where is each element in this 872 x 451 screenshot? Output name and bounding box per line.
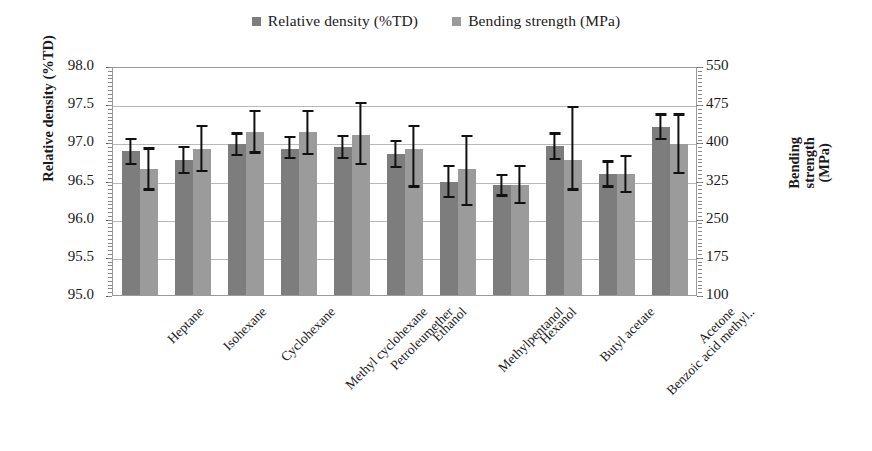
error-bar-cap-bottom (178, 172, 189, 174)
axis-minor-tick (698, 235, 702, 236)
axis-minor-tick (698, 212, 702, 213)
bar-slot (617, 68, 635, 295)
chart-container: Relative density (%TD) Bending strength … (0, 0, 872, 451)
error-bar-cap-bottom (284, 157, 295, 159)
bar-slot (546, 68, 564, 295)
axis-minor-tick (698, 71, 702, 72)
bar-slot (652, 68, 670, 295)
y-axis-right-tick-label: 475 (706, 95, 766, 112)
error-bar (196, 125, 207, 173)
bar-group (325, 68, 378, 295)
y-axis-right-tick-label: 550 (706, 57, 766, 74)
error-bar-cap-bottom (337, 157, 348, 159)
axis-minor-tick (698, 78, 702, 79)
axis-minor-tick (698, 258, 702, 259)
axis-minor-tick (698, 296, 702, 297)
error-bar-cap-bottom (143, 188, 154, 190)
axis-minor-tick (698, 136, 702, 137)
bar-slot (511, 68, 529, 295)
bar[interactable] (652, 127, 670, 295)
bar-slot (193, 68, 211, 295)
axis-minor-tick (698, 288, 702, 289)
error-bar-stem (341, 135, 343, 159)
bar-slot (228, 68, 246, 295)
y-axis-right-tick-label: 175 (706, 248, 766, 265)
error-bar (602, 160, 613, 187)
bar[interactable] (493, 185, 511, 295)
axis-minor-tick (698, 86, 702, 87)
bar[interactable] (122, 151, 140, 295)
bar[interactable] (387, 154, 405, 295)
error-bar-cap-top (143, 147, 154, 149)
error-bar-stem (147, 147, 149, 190)
error-bar (655, 113, 666, 139)
bar[interactable] (175, 160, 193, 295)
x-axis-category-labels: HeptaneIsohexaneCyclohexaneMethyl cycloh… (112, 296, 697, 446)
axis-minor-tick (698, 128, 702, 129)
error-bar-cap-top (249, 110, 260, 112)
error-bar-cap-top (408, 125, 419, 127)
error-bar-stem (253, 110, 255, 154)
bar-slot (387, 68, 405, 295)
bar[interactable] (440, 182, 458, 296)
error-bar-stem (306, 110, 308, 155)
bar-group (272, 68, 325, 295)
error-bar-cap-bottom (461, 204, 472, 206)
axis-minor-tick (698, 94, 702, 95)
error-bar-cap-top (567, 106, 578, 108)
x-axis-category-label: Isohexane (220, 304, 270, 354)
error-bar (620, 155, 631, 193)
chart-legend: Relative density (%TD) Bending strength … (0, 12, 872, 30)
bar[interactable] (281, 149, 299, 295)
bar-group (590, 68, 643, 295)
error-bar-cap-top (620, 155, 631, 157)
error-bar-stem (447, 165, 449, 198)
error-bar-cap-bottom (196, 170, 207, 172)
bar[interactable] (334, 147, 352, 295)
bar-slot (440, 68, 458, 295)
error-bar-cap-bottom (620, 191, 631, 193)
error-bar-stem (659, 113, 661, 139)
error-bar-cap-bottom (249, 151, 260, 153)
y-axis-right-title-line1: Bending (786, 137, 802, 189)
x-axis-category-label: Heptane (164, 304, 207, 347)
error-bar (567, 106, 578, 191)
error-bar-cap-bottom (514, 202, 525, 204)
error-bar-stem (518, 165, 520, 204)
error-bar (337, 135, 348, 159)
error-bar-cap-top (496, 174, 507, 176)
error-bar (231, 132, 242, 155)
axis-minor-tick (698, 132, 702, 133)
error-bar (496, 174, 507, 197)
axis-minor-tick (698, 90, 702, 91)
error-bar (178, 146, 189, 174)
bar[interactable] (599, 174, 617, 295)
axis-minor-tick (698, 120, 702, 121)
error-bar (443, 165, 454, 198)
bar[interactable] (546, 146, 564, 295)
y-axis-left-tick-label: 97.5 (14, 95, 94, 112)
bar-slot (122, 68, 140, 295)
error-bar-cap-top (196, 125, 207, 127)
bar[interactable] (246, 132, 264, 295)
axis-minor-tick (698, 220, 702, 221)
axis-minor-tick (698, 201, 702, 202)
y-axis-left-tick-label: 96.5 (14, 172, 94, 189)
axis-minor-tick (698, 117, 702, 118)
error-bar-stem (359, 102, 361, 165)
axis-minor-tick (698, 239, 702, 240)
bar-slot (564, 68, 582, 295)
bar[interactable] (299, 132, 317, 295)
bar-slot (334, 68, 352, 295)
axis-minor-tick (698, 216, 702, 217)
error-bar-cap-bottom (673, 172, 684, 174)
error-bar-cap-top (125, 138, 136, 140)
x-axis-category-label: Butyl acetate (597, 304, 658, 365)
error-bar-cap-bottom (302, 153, 313, 155)
bar[interactable] (228, 144, 246, 295)
y-axis-left-tick-label: 95.5 (14, 248, 94, 265)
error-bar-stem (182, 146, 184, 174)
axis-minor-tick (698, 243, 702, 244)
error-bar-cap-top (337, 135, 348, 137)
axis-minor-tick (698, 147, 702, 148)
